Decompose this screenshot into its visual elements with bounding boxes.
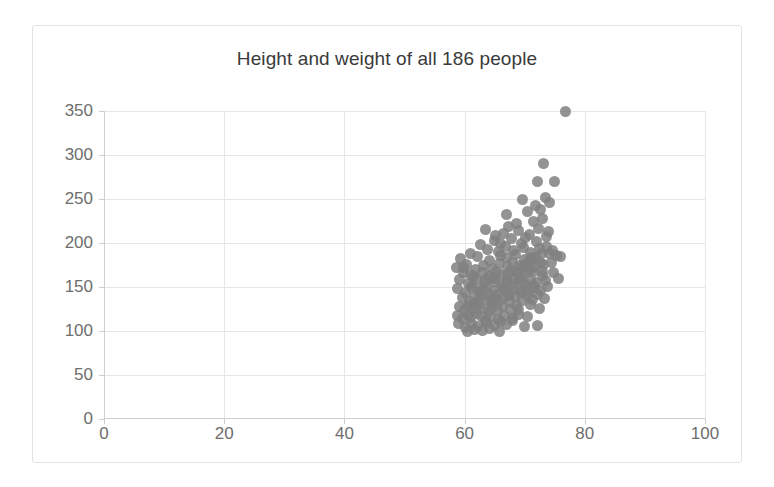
y-axis-tick-mark [99, 199, 104, 200]
y-axis-tick-mark [99, 375, 104, 376]
gridline-vertical [705, 111, 706, 419]
x-axis-tick-label: 60 [455, 424, 474, 444]
chart-title: Height and weight of all 186 people [33, 48, 741, 70]
y-axis-tick-label: 0 [84, 409, 93, 429]
x-axis-tick-mark [705, 419, 706, 424]
x-axis-tick-mark [344, 419, 345, 424]
y-axis-tick-mark [99, 331, 104, 332]
chart-figure: Height and weight of all 186 people 0204… [32, 25, 742, 463]
y-axis-tick-label: 100 [65, 321, 93, 341]
y-axis-tick-label: 350 [65, 101, 93, 121]
y-axis-tick-label: 200 [65, 233, 93, 253]
plot-frame [104, 111, 705, 419]
x-axis-tick-label: 0 [99, 424, 108, 444]
x-axis-tick-mark [585, 419, 586, 424]
x-axis-tick-mark [224, 419, 225, 424]
y-axis-tick-mark [99, 155, 104, 156]
y-axis-tick-label: 250 [65, 189, 93, 209]
y-axis-tick-label: 150 [65, 277, 93, 297]
y-axis-tick-label: 50 [74, 365, 93, 385]
x-axis-tick-label: 100 [691, 424, 719, 444]
y-axis-tick-mark [99, 243, 104, 244]
x-axis-tick-label: 40 [335, 424, 354, 444]
y-axis-tick-label: 300 [65, 145, 93, 165]
x-axis-tick-mark [465, 419, 466, 424]
x-axis-tick-label: 20 [215, 424, 234, 444]
x-axis-tick-mark [104, 419, 105, 424]
plot-area [104, 111, 705, 419]
y-axis-tick-mark [99, 111, 104, 112]
x-axis-tick-label: 80 [575, 424, 594, 444]
y-axis-tick-mark [99, 287, 104, 288]
x-axis-tick-labels: 020406080100 [104, 424, 705, 454]
